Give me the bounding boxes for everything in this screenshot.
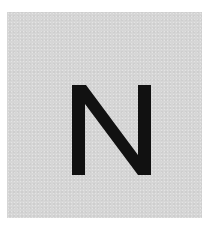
letter-n-glyph — [72, 85, 151, 175]
letter-card: N — [7, 12, 202, 218]
letter-text: N — [7, 12, 8, 13]
letter-n-shape — [72, 85, 151, 175]
